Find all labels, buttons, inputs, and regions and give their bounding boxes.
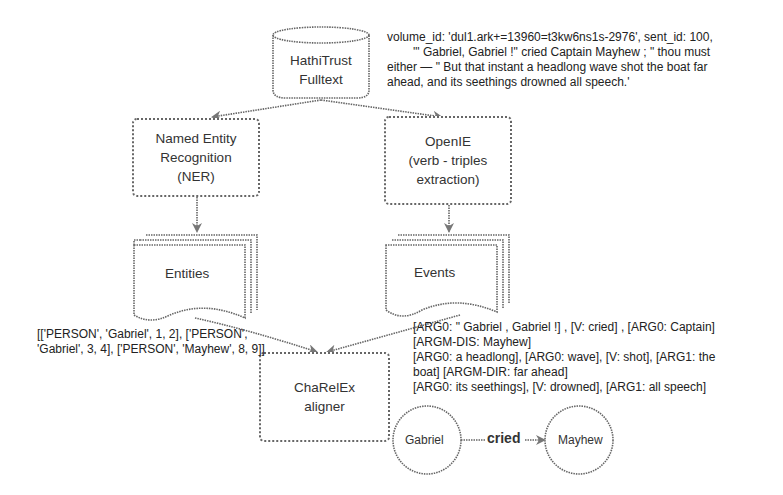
ner-node: Named Entity Recognition (NER) <box>132 118 260 197</box>
ner-line2: Recognition <box>160 148 231 167</box>
openie-line3: extraction) <box>416 170 479 189</box>
source-line1: HathiTrust <box>290 51 352 70</box>
entities-output: [['PERSON', 'Gabriel', 1, 2], ['PERSON',… <box>37 327 307 357</box>
events-label: Events <box>414 265 455 280</box>
openie-line1: OpenIE <box>425 132 471 151</box>
openie-line2: (verb - triples <box>409 151 488 170</box>
events-line2: [ARGM-DIS: Mayhew] <box>413 335 783 350</box>
source-node-hathitrust: HathiTrust Fulltext <box>275 46 367 94</box>
events-line1: [ARG0: " Gabriel , Gabriel !] , [V: crie… <box>413 320 783 335</box>
aligner-line1: ChaRelEx <box>294 378 355 397</box>
sentence-line4: ahead, and its seethings drowned all spe… <box>387 75 782 90</box>
openie-node: OpenIE (verb - triples extraction) <box>384 116 512 205</box>
person-node-gabriel: Gabriel <box>405 433 444 447</box>
events-line4: boat] [ARGM-DIR: far ahead] <box>413 365 783 380</box>
source-line2: Fulltext <box>299 70 343 89</box>
aligner-line2: aligner <box>304 397 345 416</box>
relation-label-cried: cried <box>487 430 520 446</box>
person-node-mayhew: Mayhew <box>558 433 603 447</box>
aligner-node: ChaRelEx aligner <box>259 352 390 442</box>
sentence-line2: '" Gabriel, Gabriel !" cried Captain May… <box>387 45 782 60</box>
ner-line1: Named Entity <box>155 129 236 148</box>
sentence-annotation: volume_id: 'dul1.ark+=13960=t3kw6ns1s-29… <box>387 30 782 90</box>
entities-line2: 'Gabriel', 3, 4], ['PERSON', 'Mayhew', 8… <box>37 342 307 357</box>
events-line3: [ARG0: a headlong], [ARG0: wave], [V: sh… <box>413 350 783 365</box>
entities-label: Entities <box>165 266 209 281</box>
events-output: [ARG0: " Gabriel , Gabriel !] , [V: crie… <box>413 320 783 395</box>
sentence-line3: either — " But that instant a headlong w… <box>387 60 782 75</box>
events-line5: [ARG0: its seethings], [V: drowned], [AR… <box>413 380 783 395</box>
sentence-line1: volume_id: 'dul1.ark+=13960=t3kw6ns1s-29… <box>387 30 782 45</box>
entities-line1: [['PERSON', 'Gabriel', 1, 2], ['PERSON', <box>37 327 307 342</box>
ner-line3: (NER) <box>177 167 215 186</box>
